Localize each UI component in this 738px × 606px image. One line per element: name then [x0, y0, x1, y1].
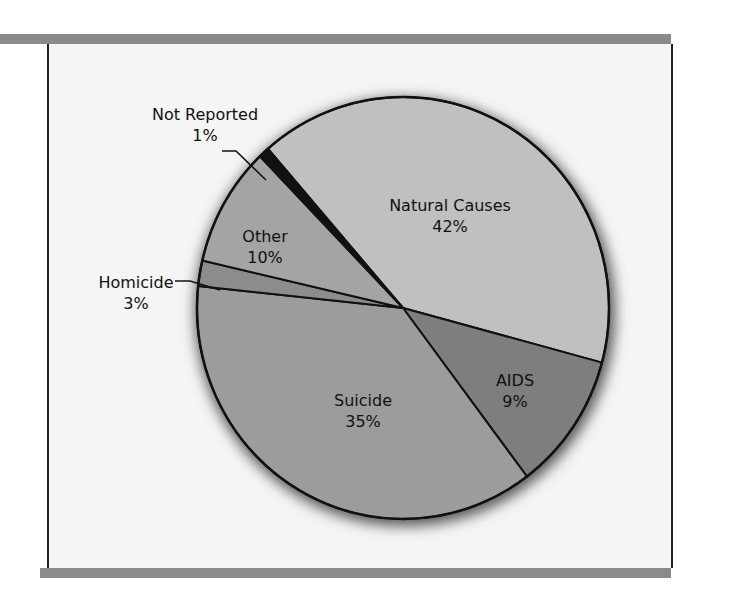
slice-name: AIDS [480, 370, 550, 391]
slice-percent: 9% [480, 391, 550, 412]
label-homicide: Homicide 3% [86, 272, 186, 314]
slice-percent: 10% [225, 247, 305, 268]
slice-name: Natural Causes [380, 195, 520, 216]
slice-name: Suicide [318, 390, 408, 411]
label-not-reported: Not Reported 1% [150, 104, 260, 146]
label-other: Other 10% [225, 226, 305, 268]
slice-percent: 35% [318, 411, 408, 432]
slice-percent: 3% [86, 293, 186, 314]
slice-percent: 42% [380, 216, 520, 237]
label-suicide: Suicide 35% [318, 390, 408, 432]
label-aids: AIDS 9% [480, 370, 550, 412]
slice-name: Other [225, 226, 305, 247]
label-natural-causes: Natural Causes 42% [380, 195, 520, 237]
slice-name: Homicide [86, 272, 186, 293]
slice-name: Not Reported [150, 104, 260, 125]
slice-percent: 1% [150, 125, 260, 146]
